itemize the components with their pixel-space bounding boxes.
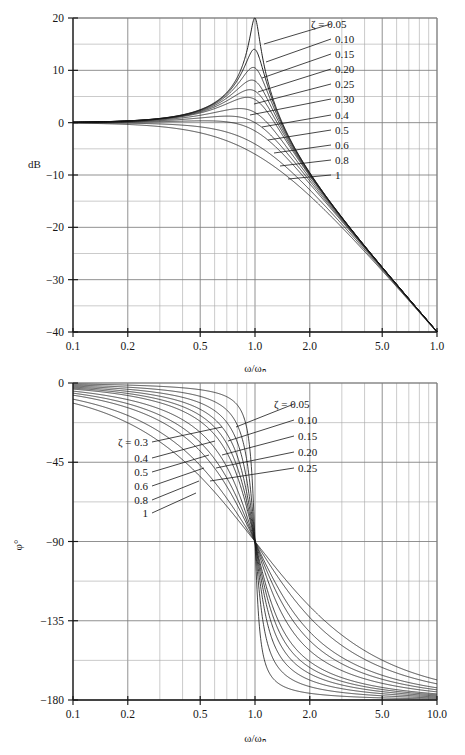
x-axis-tick-label: 1.0 — [248, 708, 263, 720]
magnitude-legend-label-0.6: 0.6 — [335, 139, 349, 151]
phase-legend-left-label-0.4: 0.4 — [134, 452, 148, 464]
y-axis-tick-label: −180 — [40, 694, 64, 706]
magnitude-y-axis-label: dB — [28, 158, 41, 170]
phase-plot-svg: 0−45−90−135−1800.10.20.51.02.05.010.0ζ =… — [0, 375, 465, 755]
grid-layer — [73, 18, 437, 332]
magnitude-legend-label-0.20: 0.20 — [335, 63, 355, 75]
phase-y-axis-label: φ° — [12, 540, 24, 551]
y-axis-tick-label: −30 — [46, 274, 64, 286]
magnitude-legend-leader-line — [250, 99, 331, 115]
x-axis-tick-label: 0.2 — [121, 340, 136, 352]
magnitude-legend-label-0.5: 0.5 — [335, 124, 349, 136]
phase-chart: 0−45−90−135−1800.10.20.51.02.05.010.0ζ =… — [0, 375, 465, 755]
phase-legend-left-leader-line — [152, 427, 222, 442]
phase-legend-right: ζ = 0.050.100.150.200.25 — [210, 398, 318, 481]
magnitude-legend-label-0.4: 0.4 — [335, 109, 349, 121]
magnitude-x-axis-label: ω/ωₙ — [244, 362, 266, 374]
magnitude-chart: 20100−10−20−30−400.10.20.51.02.05.01.0ζ … — [0, 0, 465, 380]
magnitude-legend-label-0.8: 0.8 — [335, 154, 349, 166]
magnitude-legend-leader-line — [280, 160, 331, 166]
y-axis-tick-label: −90 — [46, 536, 64, 548]
phase-x-axis-label: ω/ωₙ — [244, 732, 266, 744]
magnitude-legend-label-0.05: ζ = 0.05 — [311, 18, 347, 31]
y-axis-tick-label: −40 — [46, 326, 64, 338]
tick-layer: 20100−10−20−30−400.10.20.51.02.05.01.0 — [46, 12, 444, 352]
magnitude-legend-label-0.30: 0.30 — [335, 93, 355, 105]
magnitude-plot-svg: 20100−10−20−30−400.10.20.51.02.05.01.0ζ … — [0, 0, 465, 380]
x-axis-tick-label: 1.0 — [248, 340, 263, 352]
x-axis-tick-label: 0.1 — [66, 340, 81, 352]
phase-legend-right-label-0.25: 0.25 — [298, 462, 318, 474]
phase-legend-left-label-0.3: ζ = 0.3 — [118, 436, 149, 449]
y-axis-tick-label: 10 — [53, 64, 65, 76]
x-axis-tick-label: 0.5 — [193, 708, 208, 720]
y-axis-tick-label: −10 — [46, 169, 64, 181]
magnitude-legend-label-0.25: 0.25 — [335, 78, 355, 90]
y-axis-tick-label: 0 — [58, 117, 64, 129]
magnitude-legend: ζ = 0.050.100.150.200.250.300.40.50.60.8… — [250, 18, 355, 181]
magnitude-legend-label-0.15: 0.15 — [335, 48, 355, 60]
y-axis-tick-label: −45 — [46, 456, 64, 468]
magnitude-legend-leader-line — [262, 54, 331, 78]
bode-diagram-figure: 20100−10−20−30−400.10.20.51.02.05.01.0ζ … — [0, 0, 465, 755]
phase-legend-left-leader-line — [152, 441, 215, 458]
x-axis-tick-label: 0.5 — [193, 340, 208, 352]
phase-legend-right-label-0.10: 0.10 — [298, 414, 318, 426]
phase-legend-left-label-0.5: 0.5 — [134, 466, 148, 478]
phase-legend-left-label-1: 1 — [143, 507, 149, 519]
x-axis-tick-label: 0.1 — [66, 708, 81, 720]
phase-legend-right-label-0.15: 0.15 — [298, 430, 318, 442]
x-axis-tick-label: 0.2 — [121, 708, 136, 720]
phase-legend-right-label-0.05: ζ = 0.05 — [274, 398, 310, 411]
x-axis-tick-label: 10.0 — [427, 708, 447, 720]
phase-legend-left-label-0.6: 0.6 — [134, 480, 148, 492]
phase-legend-left-leader-line — [152, 493, 196, 513]
x-axis-tick-label: 2.0 — [303, 708, 318, 720]
phase-legend-left-label-0.8: 0.8 — [134, 494, 148, 506]
phase-legend-right-leader-line — [228, 420, 294, 441]
x-axis-tick-label: 5.0 — [375, 708, 390, 720]
y-axis-tick-label: 0 — [58, 377, 64, 389]
magnitude-legend-leader-line — [266, 39, 331, 62]
magnitude-legend-leader-line — [258, 69, 331, 92]
phase-legend-left: ζ = 0.30.40.50.60.81 — [118, 427, 222, 519]
y-axis-tick-label: 20 — [53, 12, 65, 24]
tick-layer: 0−45−90−135−1800.10.20.51.02.05.010.0 — [40, 377, 447, 720]
y-axis-tick-label: −135 — [40, 615, 64, 627]
y-axis-tick-label: −20 — [46, 221, 64, 233]
magnitude-legend-label-1: 1 — [335, 169, 341, 181]
phase-legend-right-label-0.20: 0.20 — [298, 446, 318, 458]
x-axis-tick-label: 5.0 — [375, 340, 390, 352]
magnitude-legend-label-0.10: 0.10 — [335, 33, 355, 45]
x-axis-tick-label: 1.0 — [430, 340, 445, 352]
x-axis-tick-label: 2.0 — [303, 340, 318, 352]
magnitude-legend-leader-line — [262, 115, 331, 127]
